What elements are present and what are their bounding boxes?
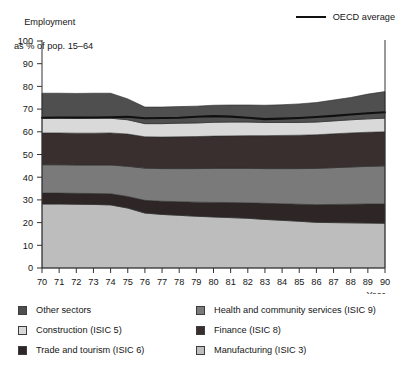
- legend-item[interactable]: Construction (ISIC 5): [18, 320, 144, 340]
- x-axis-tick-label: 72: [71, 277, 81, 287]
- legend-item[interactable]: Trade and tourism (ISIC 6): [18, 340, 144, 360]
- x-axis-tick-label: 77: [157, 277, 167, 287]
- legend-item[interactable]: Finance (ISIC 8): [196, 320, 376, 340]
- area-band: [42, 132, 385, 169]
- y-axis-title-line1: Employment: [24, 17, 75, 27]
- y-axis-tick-label: 30: [23, 195, 33, 205]
- x-axis-tick-label: 73: [88, 277, 98, 287]
- legend-item-label: Other sectors: [36, 305, 91, 315]
- oecd-average-legend-label: OECD average: [333, 12, 395, 22]
- y-axis-tick-label: 90: [23, 59, 33, 69]
- legend-color-swatch-icon: [196, 326, 205, 335]
- legend-color-swatch-icon: [18, 346, 27, 355]
- x-axis-tick-label: 90: [380, 277, 390, 287]
- stacked-area-chart: 0102030405060708090100707172737475767778…: [0, 36, 401, 294]
- legend-column-left: Other sectorsConstruction (ISIC 5)Trade …: [18, 300, 144, 360]
- x-axis-tick-label: 86: [311, 277, 321, 287]
- line-swatch-icon: [296, 16, 326, 19]
- legend-color-swatch-icon: [18, 326, 27, 335]
- x-axis-tick-label: 81: [226, 277, 236, 287]
- x-axis-tick-label: 76: [140, 277, 150, 287]
- y-axis-tick-label: 20: [23, 218, 33, 228]
- x-axis-name: Year: [366, 290, 385, 294]
- x-axis-tick-label: 84: [277, 277, 287, 287]
- legend-item-label: Trade and tourism (ISIC 6): [36, 345, 144, 355]
- x-axis-tick-label: 89: [363, 277, 373, 287]
- legend-item[interactable]: Manufacturing (ISIC 3): [196, 340, 376, 360]
- legend-column-right: Health and community services (ISIC 9)Fi…: [196, 300, 376, 360]
- y-axis-tick-label: 50: [23, 150, 33, 160]
- x-axis-tick-label: 85: [294, 277, 304, 287]
- legend-item[interactable]: Health and community services (ISIC 9): [196, 300, 376, 320]
- oecd-average-legend: OECD average: [296, 12, 395, 22]
- legend-color-swatch-icon: [18, 306, 27, 315]
- x-axis-tick-label: 74: [105, 277, 115, 287]
- y-axis-tick-label: 100: [18, 36, 33, 46]
- x-axis-tick-label: 82: [243, 277, 253, 287]
- x-axis-tick-label: 88: [346, 277, 356, 287]
- y-axis-tick-label: 40: [23, 173, 33, 183]
- chart-header: Employment as % of pop. 15–64 OECD avera…: [0, 0, 401, 36]
- legend-color-swatch-icon: [196, 346, 205, 355]
- y-axis-tick-label: 0: [28, 263, 33, 273]
- chart-plot-area: 0102030405060708090100707172737475767778…: [0, 36, 401, 294]
- y-axis-tick-label: 70: [23, 104, 33, 114]
- legend-item-label: Finance (ISIC 8): [214, 325, 281, 335]
- y-axis-tick-label: 80: [23, 82, 33, 92]
- x-axis-tick-label: 71: [54, 277, 64, 287]
- legend-color-swatch-icon: [196, 306, 205, 315]
- y-axis-tick-label: 60: [23, 127, 33, 137]
- x-axis-tick-label: 78: [174, 277, 184, 287]
- legend-item-label: Health and community services (ISIC 9): [214, 305, 376, 315]
- x-axis-tick-label: 79: [191, 277, 201, 287]
- x-axis-tick-label: 75: [123, 277, 133, 287]
- legend-item-label: Manufacturing (ISIC 3): [214, 345, 306, 355]
- legend-item-label: Construction (ISIC 5): [36, 325, 122, 335]
- x-axis-tick-label: 70: [37, 277, 47, 287]
- x-axis-tick-label: 83: [260, 277, 270, 287]
- chart-legend: Other sectorsConstruction (ISIC 5)Trade …: [0, 300, 401, 368]
- x-axis-tick-label: 87: [328, 277, 338, 287]
- y-axis-tick-label: 10: [23, 241, 33, 251]
- legend-item[interactable]: Other sectors: [18, 300, 144, 320]
- x-axis-tick-label: 80: [208, 277, 218, 287]
